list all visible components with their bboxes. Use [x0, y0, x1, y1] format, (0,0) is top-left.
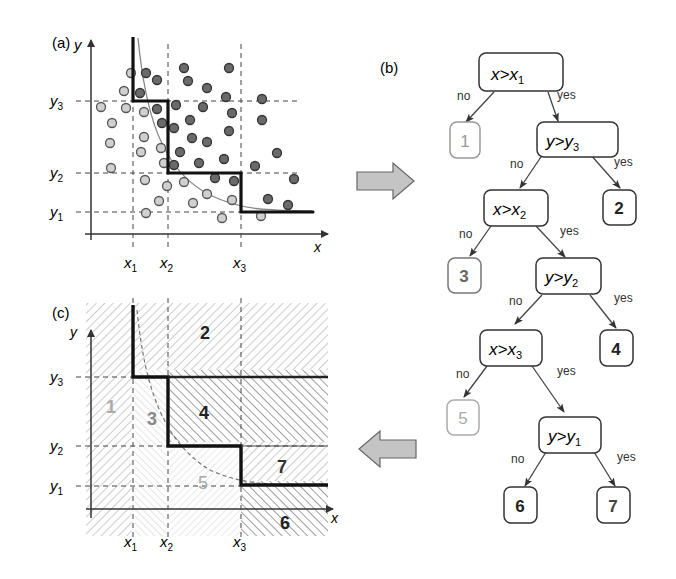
svg-text:no: no [509, 294, 523, 308]
c-x-axis-label: x [330, 510, 339, 526]
tree-leaf-7: 7 [597, 487, 630, 523]
tree-leaf-2: 2 [603, 190, 636, 225]
x-axis-label: x [313, 239, 322, 255]
svg-text:yes: yes [614, 155, 633, 169]
region-4 [168, 370, 328, 442]
svg-text:2: 2 [614, 199, 623, 218]
arrow-left-icon [359, 431, 416, 467]
region-label-5: 5 [198, 473, 208, 493]
region-label-3: 3 [147, 409, 157, 429]
tree-node-y-gt-y2: y>y2 [536, 258, 601, 294]
svg-text:no: no [456, 367, 470, 381]
tree-node-y-gt-y1: y>y1 [539, 417, 601, 453]
region-label-4: 4 [199, 403, 209, 423]
region-2 [133, 303, 328, 370]
x2-label: x2 [159, 254, 174, 274]
region-label-6: 6 [280, 513, 290, 533]
panel-b-decision-tree: (b) no yes no yes no yes no yes no [380, 53, 636, 523]
panel-c: (c) y x [49, 298, 339, 553]
svg-text:yes: yes [557, 364, 576, 378]
arrow-right-icon [357, 163, 414, 199]
tree-leaf-6: 6 [504, 487, 537, 523]
x-tick-labels: x1 x2 x3 [123, 254, 247, 274]
panel-a: (a) y x y3 y2 y1 x1 x2 x3 [49, 34, 328, 274]
x3-label: x3 [232, 254, 247, 274]
panel-c-label: (c) [52, 304, 70, 321]
svg-text:no: no [457, 89, 471, 103]
svg-text:no: no [511, 452, 525, 466]
c-y2-label: y2 [49, 437, 64, 457]
c-y1-label: y1 [49, 477, 64, 497]
svg-text:4: 4 [611, 340, 621, 359]
svg-text:yes: yes [617, 450, 636, 464]
region-label-1: 1 [106, 397, 116, 417]
tree-leaf-3: 3 [448, 258, 481, 293]
svg-text:yes: yes [614, 291, 633, 305]
tree-node-x-gt-x1: x>x1 [479, 53, 563, 91]
y-axis-label: y [73, 36, 83, 53]
class-dark-points [136, 64, 299, 210]
panel-a-label: (a) [52, 34, 70, 51]
y3-label: y3 [49, 92, 64, 112]
svg-text:1: 1 [460, 132, 469, 151]
figure-canvas: (a) y x y3 y2 y1 x1 x2 x3 [0, 0, 676, 579]
svg-text:no: no [459, 227, 473, 241]
panel-b-label: (b) [380, 59, 398, 76]
region-label-2: 2 [200, 323, 210, 343]
region-1 [86, 303, 133, 536]
tree-node-x-gt-x2: x>x2 [484, 190, 548, 226]
svg-text:6: 6 [515, 497, 524, 516]
tree-leaf-5: 5 [447, 400, 479, 435]
region-3 [133, 370, 168, 536]
y-tick-labels: y3 y2 y1 [49, 92, 64, 223]
tree-node-x-gt-x3: x>x3 [480, 330, 542, 366]
tree-leaf-4: 4 [600, 330, 633, 366]
svg-text:7: 7 [608, 497, 617, 516]
tree-leaf-1: 1 [450, 122, 480, 158]
svg-text:3: 3 [459, 267, 468, 286]
c-y3-label: y3 [49, 368, 64, 388]
region-label-7: 7 [277, 457, 287, 477]
y1-label: y1 [49, 203, 64, 223]
tree-node-y-gt-y3: y>y3 [537, 122, 618, 157]
x1-label: x1 [123, 254, 138, 274]
svg-text:5: 5 [458, 409, 467, 428]
svg-text:yes: yes [560, 224, 579, 238]
y2-label: y2 [49, 164, 64, 184]
svg-text:no: no [510, 157, 524, 171]
c-y-axis-label: y [69, 324, 78, 340]
